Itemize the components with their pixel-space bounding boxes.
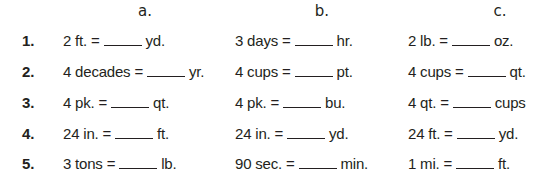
answer-blank[interactable] bbox=[115, 137, 153, 139]
problem-3a: 4 pk. =qt. bbox=[63, 94, 169, 111]
answer-blank[interactable] bbox=[104, 44, 142, 46]
problem-5c: 1 mi. =ft. bbox=[408, 155, 510, 172]
answer-blank[interactable] bbox=[452, 44, 490, 46]
problem-number: 4. bbox=[22, 125, 35, 142]
answer-blank[interactable] bbox=[147, 75, 185, 77]
answer-blank[interactable] bbox=[283, 106, 321, 108]
answer-blank[interactable] bbox=[299, 167, 337, 169]
answer-blank[interactable] bbox=[453, 106, 491, 108]
column-header-b: b. bbox=[315, 2, 329, 20]
problem-1a: 2 ft. =yd. bbox=[63, 32, 165, 49]
problem-1b: 3 days =hr. bbox=[235, 32, 353, 49]
answer-blank[interactable] bbox=[295, 75, 333, 77]
problem-5b: 90 sec. =min. bbox=[235, 155, 368, 172]
problem-4b: 24 in. =yd. bbox=[235, 125, 348, 142]
problem-3b: 4 pk. =bu. bbox=[235, 94, 345, 111]
problem-4a: 24 in. =ft. bbox=[63, 125, 169, 142]
column-header-c: c. bbox=[493, 2, 506, 20]
problem-3c: 4 qt. =cups bbox=[408, 94, 526, 111]
problem-row-4: 4. 24 in. =ft. 24 in. =yd. 24 ft. =yd. bbox=[0, 125, 556, 153]
problem-row-2: 2. 4 decades =yr. 4 cups =pt. 4 cups =qt… bbox=[0, 63, 556, 91]
problem-2c: 4 cups =qt. bbox=[408, 63, 526, 80]
answer-blank[interactable] bbox=[295, 44, 333, 46]
problem-row-3: 3. 4 pk. =qt. 4 pk. =bu. 4 qt. =cups bbox=[0, 94, 556, 122]
problem-number: 5. bbox=[22, 155, 35, 172]
answer-blank[interactable] bbox=[287, 137, 325, 139]
problem-4c: 24 ft. =yd. bbox=[408, 125, 518, 142]
problem-row-1: 1. 2 ft. =yd. 3 days =hr. 2 lb. =oz. bbox=[0, 32, 556, 60]
answer-blank[interactable] bbox=[456, 167, 494, 169]
problem-number: 3. bbox=[22, 94, 35, 111]
problem-number: 2. bbox=[22, 63, 35, 80]
problem-1c: 2 lb. =oz. bbox=[408, 32, 513, 49]
problem-row-5: 5. 3 tons =lb. 90 sec. =min. 1 mi. =ft. bbox=[0, 155, 556, 177]
column-header-a: a. bbox=[138, 2, 152, 20]
answer-blank[interactable] bbox=[111, 106, 149, 108]
answer-blank[interactable] bbox=[457, 137, 495, 139]
answer-blank[interactable] bbox=[468, 75, 506, 77]
problem-2b: 4 cups =pt. bbox=[235, 63, 353, 80]
problem-5a: 3 tons =lb. bbox=[63, 155, 176, 172]
problem-2a: 4 decades =yr. bbox=[63, 63, 204, 80]
answer-blank[interactable] bbox=[119, 167, 157, 169]
problem-number: 1. bbox=[22, 32, 35, 49]
